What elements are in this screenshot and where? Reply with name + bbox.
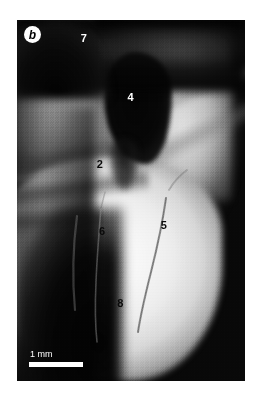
panel-letter-badge: b	[24, 26, 41, 43]
scale-bar: 1 mm	[29, 350, 83, 367]
marker-label-6: 6	[99, 226, 105, 237]
marker-label-8: 8	[117, 298, 123, 309]
micrograph-image: b 7 4 2 6 5 8 1 mm	[17, 20, 245, 381]
marker-label-2: 2	[97, 159, 103, 170]
marker-label-5: 5	[161, 220, 167, 231]
faint-fissure-line	[17, 20, 245, 381]
scale-bar-label: 1 mm	[29, 350, 83, 359]
marker-label-4: 4	[128, 92, 134, 103]
figure-root: b 7 4 2 6 5 8 1 mm	[0, 0, 257, 400]
marker-label-7: 7	[81, 33, 87, 44]
scale-bar-rule	[29, 362, 83, 367]
